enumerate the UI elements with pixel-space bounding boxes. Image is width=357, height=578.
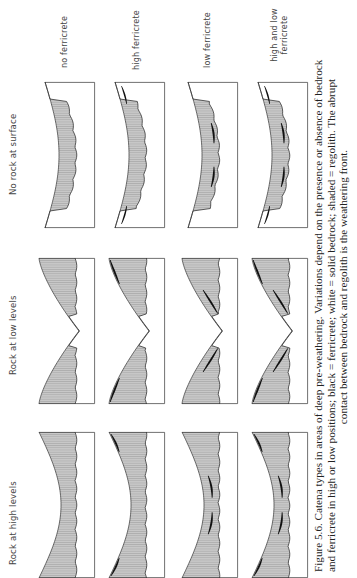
catena-panel-rock-high-no-ferricrete [37, 82, 95, 228]
catena-panel-rock-low-no-ferricrete [37, 258, 95, 404]
caption-line-2: and ferricrete in high or low positions;… [325, 79, 337, 572]
caption-line-1: Figure 5.6. Catena types in areas of dee… [312, 60, 324, 572]
regolith-zone [109, 258, 150, 404]
row-label-high-ferricrete: high ferricrete [132, 10, 142, 70]
catena-panel-no-rock-high-low-ferricrete [250, 432, 308, 578]
regolith-zone [39, 258, 80, 404]
regolith-zone [252, 432, 290, 578]
catena-panel-rock-low-high-ferricrete [107, 258, 165, 404]
row-label-high-and-low-ferricrete: high and low ferricrete [270, 0, 290, 70]
regolith-zone [109, 432, 147, 578]
column-header-rock-low: Rock at low levels [8, 295, 18, 375]
catena-panel-no-rock-no-ferricrete [37, 432, 95, 578]
row-label-low-ferricrete: low ferricrete [203, 12, 213, 68]
regolith-zone [252, 258, 293, 404]
catena-panel-rock-high-low-ferricrete [180, 82, 238, 228]
regolith-zone [258, 82, 290, 228]
regolith-zone [45, 82, 77, 228]
row-label-text: ferricrete [280, 0, 290, 70]
regolith-zone [39, 432, 77, 578]
column-header-no-rock: No rock at surface [8, 114, 18, 195]
catena-panel-no-rock-low-ferricrete [180, 432, 238, 578]
caption-line-3: contact between bedrock and regolith is … [337, 2, 350, 572]
regolith-zone [182, 432, 220, 578]
catena-panel-rock-high-high-ferricrete [107, 82, 165, 228]
row-label-text: high and low [270, 0, 280, 70]
figure-caption: Figure 5.6. Catena types in areas of dee… [312, 2, 350, 572]
figure-5-6: Rock at high levels Rock at low levels N… [0, 0, 357, 578]
regolith-zone [188, 82, 220, 228]
row-label-no-ferricrete: no ferricrete [60, 16, 70, 68]
row-label-text: high ferricrete [132, 10, 141, 70]
row-label-text: low ferricrete [203, 12, 212, 68]
catena-panel-rock-low-high-low-ferricrete [250, 258, 308, 404]
row-label-text: no ferricrete [60, 16, 69, 68]
column-header-rock-high: Rock at high levels [8, 481, 18, 565]
catena-panel-no-rock-high-ferricrete [107, 432, 165, 578]
catena-panel-rock-low-low-ferricrete [180, 258, 238, 404]
regolith-zone [182, 258, 223, 404]
regolith-zone [115, 82, 147, 228]
catena-panel-rock-high-high-low-ferricrete [250, 82, 308, 228]
